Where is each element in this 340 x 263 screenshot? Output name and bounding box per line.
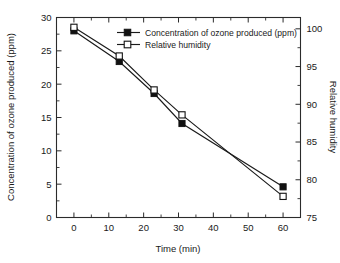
- y-tick-label: 10: [41, 145, 52, 156]
- data-point-marker: [71, 24, 77, 30]
- y2-tick-label: 100: [307, 23, 323, 34]
- data-point-marker: [280, 193, 286, 199]
- x-tick-label: 40: [208, 222, 219, 233]
- legend-label-ozone: Concentration of ozone produced (ppm): [145, 28, 297, 38]
- chart-container: 0102030405060 051015202530 7580859095100…: [0, 0, 340, 263]
- data-point-marker: [179, 120, 185, 126]
- y-tick-label: 5: [46, 179, 51, 190]
- y-tick-label: 15: [41, 112, 52, 123]
- x-tick-label: 60: [278, 222, 289, 233]
- x-axis-title: Time (min): [155, 243, 200, 254]
- data-point-marker: [116, 53, 122, 59]
- y2-tick-label: 85: [307, 136, 318, 147]
- x-tick-label: 20: [138, 222, 149, 233]
- legend-item-humidity: Relative humidity: [117, 40, 211, 50]
- legend-marker-open-square: [124, 41, 131, 48]
- x-tick-label: 10: [103, 222, 114, 233]
- y2-tick-label: 95: [307, 61, 318, 72]
- x-tick-label: 50: [243, 222, 254, 233]
- x-tick-label: 0: [71, 222, 76, 233]
- y-tick-label: 30: [41, 12, 52, 23]
- y-tick-label: 20: [41, 79, 52, 90]
- y-axis-left-title: Concentration of ozone produced (ppm): [5, 33, 16, 201]
- y2-tick-label: 80: [307, 174, 318, 185]
- y2-tick-label: 90: [307, 99, 318, 110]
- legend-marker-filled-square: [124, 29, 131, 36]
- y-tick-label: 0: [46, 212, 51, 223]
- ozone-humidity-line-chart: 0102030405060 051015202530 7580859095100…: [0, 0, 340, 263]
- y-tick-label: 25: [41, 45, 52, 56]
- y2-tick-label: 75: [307, 212, 318, 223]
- data-point-marker: [280, 184, 286, 190]
- x-tick-label: 30: [173, 222, 184, 233]
- y-axis-right-title: Relative humidity: [328, 81, 339, 154]
- legend-label-humidity: Relative humidity: [145, 40, 211, 50]
- data-point-marker: [179, 112, 185, 118]
- data-point-marker: [151, 87, 157, 93]
